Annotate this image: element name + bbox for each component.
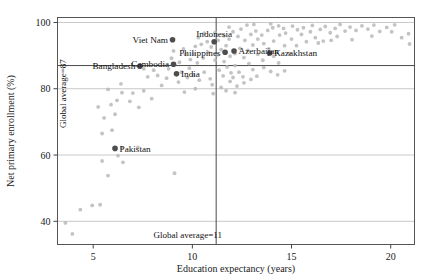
y-tick-label: 100 — [36, 17, 51, 28]
y-axis-title: Net primary enrollment (%) — [5, 75, 17, 187]
data-point-label: Pakistan — [120, 144, 152, 154]
y-tick-label: 80 — [41, 83, 51, 94]
x-tick-label: 10 — [187, 251, 197, 262]
scatter-plot-figure: · · · · · BangladeshCambodiaIndiaViet Na… — [0, 0, 435, 279]
data-point-label: Indonesia — [196, 29, 232, 39]
data-point-label: Bangladesh — [92, 61, 135, 71]
figure-caption-bleed: · · · · · — [0, 0, 435, 10]
figure-caption-bleed-text: · · · · · — [4, 0, 30, 1]
global-average-expectancy-label: Global average=11 — [154, 230, 222, 240]
x-axis-title: Education expectancy (years) — [177, 263, 295, 275]
y-axis-ticks: 406080100 — [36, 17, 58, 227]
chart-canvas: BangladeshCambodiaIndiaViet NamIndonesia… — [0, 0, 435, 279]
data-point-labels: BangladeshCambodiaIndiaViet NamIndonesia… — [92, 29, 317, 154]
data-point-label: Philippines — [179, 48, 221, 58]
x-tick-label: 15 — [287, 251, 297, 262]
x-axis-ticks: 5101520 — [91, 245, 396, 262]
data-point-label: Cambodia — [131, 59, 169, 69]
global-average-enrollment-label: Global average=87 — [58, 59, 68, 128]
data-point-label: Viet Nam — [133, 35, 168, 45]
data-points-other — [64, 22, 412, 236]
y-tick-label: 60 — [41, 150, 51, 161]
x-tick-label: 5 — [91, 251, 96, 262]
data-point-label: Azerbaijan — [239, 46, 280, 56]
x-tick-label: 20 — [386, 251, 396, 262]
data-point-label: Kazakhstan — [274, 48, 317, 58]
y-tick-label: 40 — [41, 216, 51, 227]
data-point-label: India — [181, 69, 200, 79]
